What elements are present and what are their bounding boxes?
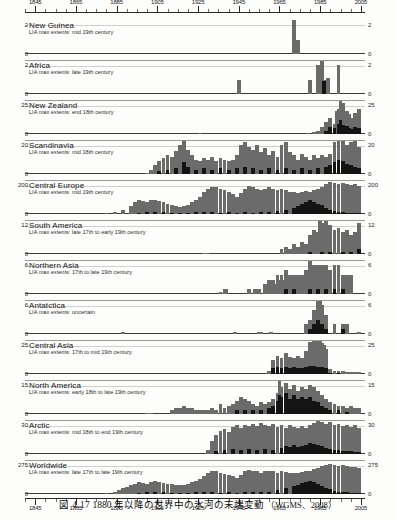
retreat-bar [247,289,251,294]
advance-bar [292,289,296,294]
retreat-bar [337,65,341,94]
retreat-bar [308,80,312,94]
axis-minor-tick [168,9,169,12]
advance-bar [157,171,161,174]
panel-bars [25,460,365,494]
retreat-bar [113,212,117,214]
retreat-bar [357,428,361,454]
advance-bar [308,170,312,174]
axis-minor-tick [259,9,260,12]
advance-bar [219,168,223,174]
axis-tick-label: 1905 [151,0,164,6]
axis-tick-label: 1985 [314,0,327,6]
panel-lia-subtitle: LIA max extents: mid 18th century [29,149,113,156]
axis-tick-label: 1925 [192,0,205,6]
advance-bar [243,492,247,494]
retreat-bar [296,40,300,54]
panel-bars [25,300,365,334]
y-axis-tick-label: 0 [25,51,28,57]
advance-bar [186,493,190,494]
advance-bar [227,170,231,174]
advance-bar [194,492,198,494]
region-panel: AntatcticaLIA max extents: uncertain0066 [0,300,396,340]
y-axis-tick-label: 25 [368,342,375,348]
y-axis-tick-label: 15 [368,382,375,388]
axis-minor-tick [208,9,209,12]
axis-top: 184518651885190519251945196519852005 [25,0,365,13]
region-panel: New GuineaLIA max extents: mid 19th cent… [0,20,396,60]
retreat-bar [105,493,109,494]
y-axis-tick-label: 275 [18,462,28,468]
retreat-bar [233,332,237,334]
advance-bar [162,212,166,214]
advance-bar [239,450,243,454]
axis-minor-tick [45,9,46,12]
region-panel: ArcticLIA max extents: mid 18th to end 1… [0,420,396,460]
advance-bar [145,212,149,214]
y-axis-tick-label: 0 [25,211,28,217]
retreat-bar [149,413,153,414]
y-axis-tick-label: 0 [25,491,28,497]
advance-bar [259,170,263,174]
panel-plot-area [25,140,365,180]
advance-bar [324,329,328,334]
advance-bar [267,492,271,494]
advance-bar [259,492,263,494]
axis-tick-label: 2005 [355,0,368,6]
panel-bars [25,60,365,94]
y-axis-tick-label: 0 [368,171,371,177]
advance-bar [328,410,332,414]
advance-bar [259,410,263,414]
advance-bar [284,168,288,174]
panel-plot-area [25,420,365,460]
panel-plot-area [25,20,365,60]
y-axis-tick-label: 25 [21,342,28,348]
axis-top-line [25,12,365,13]
y-axis-tick-label: 200 [368,182,378,188]
panel-lia-subtitle: LIA max extents: 17th to late 19th centu… [29,269,132,276]
retreat-bar [259,332,263,334]
axis-tick-label: 1845 [29,0,42,6]
retreat-bar [306,133,310,134]
advance-bar [178,213,182,214]
advance-bar [333,289,337,294]
axis-major-tick [35,6,36,12]
axis-major-tick [279,6,280,12]
retreat-bar [121,332,125,334]
axis-major-tick [117,6,118,12]
advance-bar [276,170,280,174]
advance-bar [227,492,231,494]
y-axis-tick-label: 0 [368,451,371,457]
advance-bar [292,170,296,174]
y-axis-tick-label: 2 [368,62,371,68]
axis-major-tick [76,6,77,12]
advance-bar [322,81,326,94]
axis-minor-tick [106,9,107,12]
axis-minor-tick [341,9,342,12]
advance-bar [337,410,341,414]
advance-bar [137,213,141,214]
axis-minor-tick [249,9,250,12]
panel-lia-subtitle: LIA max extents: early 18th to late 19th… [29,389,146,396]
caption-source: （WGMS、2008） [266,500,336,510]
y-axis-tick-label: 25 [368,102,375,108]
axis-minor-tick [96,9,97,12]
panel-lia-subtitle: LIA max extents: late 17th to early 19th… [29,229,146,236]
axis-tick-label: 1945 [232,0,245,6]
advance-bar [357,493,361,494]
panel-lia-subtitle: LIA max extents: mid 18th to end 19th ce… [29,429,143,436]
advance-bar [251,410,255,414]
region-panel: South AmericaLIA max extents: late 17th … [0,220,396,260]
advance-bar [328,373,332,374]
advance-bar [166,170,170,174]
axis-minor-tick [351,9,352,12]
region-panel: Central AsiaLIA max extents: 17th to mid… [0,340,396,380]
panel-plot-area [25,60,365,100]
advance-bar [235,168,239,174]
advance-bar [251,492,255,494]
advance-bar [251,213,255,214]
advance-bar [186,213,190,214]
axis-major-tick [320,6,321,12]
advance-bar [170,493,174,494]
axis-minor-tick [178,9,179,12]
